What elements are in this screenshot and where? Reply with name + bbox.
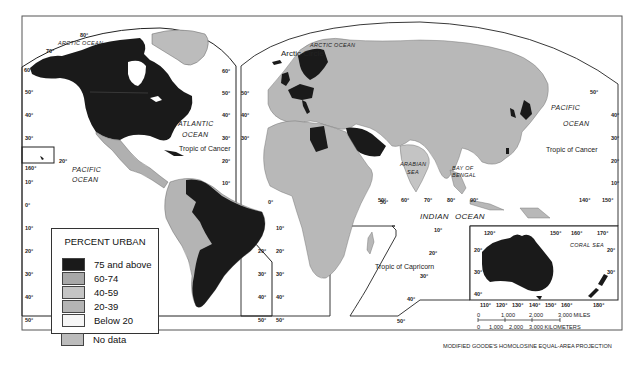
latitude-label: 30° (607, 270, 615, 276)
latitude-label: 60° (24, 68, 32, 74)
latitude-label: 40° (611, 113, 619, 119)
longitude-label: 150° (545, 303, 556, 309)
latitude-label: 40° (276, 295, 284, 301)
longitude-label: 80° (80, 33, 88, 39)
legend-swatch (62, 300, 85, 313)
latitude-label: 50° (590, 90, 598, 96)
latitude-label: 30° (420, 274, 428, 280)
latitude-label: 50° (25, 318, 33, 324)
latitude-label: 30° (474, 270, 482, 276)
ocean-label: OCEAN (72, 176, 98, 183)
longitude-label: 150° (602, 198, 613, 204)
longitude-label: 140° (579, 198, 590, 204)
latitude-label: 50° (241, 91, 249, 97)
legend-item-no-data: No data (61, 333, 126, 346)
legend-swatch (62, 286, 85, 299)
ocean-label: ARABIAN (400, 162, 426, 168)
scale-label: 2,000 (529, 312, 543, 318)
longitude-label: 160° (25, 166, 36, 172)
legend-item-40-59: 40-59 (62, 285, 118, 299)
latitude-label: 50° (276, 318, 284, 324)
longitude-label: 60° (401, 198, 409, 204)
latitude-label: 40° (25, 113, 33, 119)
legend-label: 20-39 (94, 301, 118, 312)
legend: PERCENT URBAN 75 and above 60-74 40-59 2… (51, 228, 159, 334)
latitude-label: 10° (276, 226, 284, 232)
ocean-label: ARCTIC OCEAN (58, 41, 103, 47)
latitude-label: 30° (611, 136, 619, 142)
legend-label: No data (93, 334, 126, 345)
legend-title: PERCENT URBAN (52, 236, 158, 247)
hawaii-inset (22, 147, 54, 163)
latitude-label: 40° (474, 292, 482, 298)
longitude-label: 70° (46, 49, 54, 55)
longitude-label: 140° (529, 303, 540, 309)
ocean-label: PACIFIC (551, 104, 580, 111)
longitude-label: 70° (424, 198, 432, 204)
latitude-label: 10° (222, 181, 230, 187)
longitude-label: 50° (378, 198, 386, 204)
legend-label: Below 20 (94, 315, 133, 326)
legend-label: 75 and above (94, 259, 152, 270)
arctic-circle-label: Arctic Circle (281, 50, 324, 58)
latitude-label: 20° (222, 159, 230, 165)
latitude-label: 0° (25, 203, 30, 209)
scale-label: 0 (477, 312, 480, 318)
legend-swatch (61, 333, 84, 346)
latitude-label: 10° (25, 226, 33, 232)
legend-swatch (62, 258, 85, 271)
taiwan (506, 148, 509, 154)
latitude-label: 20° (474, 248, 482, 254)
longitude-label: 150° (550, 231, 561, 237)
latitude-label: 30° (258, 272, 266, 278)
legend-item-75-above: 75 and above (62, 257, 152, 271)
longitude-label: 130° (512, 303, 523, 309)
ocean-label: INDIAN (420, 213, 449, 221)
latitude-label: 40° (407, 297, 415, 303)
scale-bar (478, 318, 560, 322)
latitude-label: 20° (611, 159, 619, 165)
latitude-label: 40° (222, 113, 230, 119)
longitude-label: 120° (484, 231, 495, 237)
scale-label: 2,000 (509, 324, 523, 330)
longitude-label: 120° (496, 303, 507, 309)
scale-label: 1,000 (501, 312, 515, 318)
scale-label: 1,000 (489, 324, 503, 330)
latitude-label: 50° (397, 319, 405, 325)
ocean-label: ARCTIC OCEAN (310, 43, 355, 49)
longitude-label: 90° (470, 198, 478, 204)
tropic-of-cancer-label: Tropic of Cancer (179, 145, 230, 152)
mexico-central-america (96, 132, 168, 188)
latitude-label: 20° (607, 248, 615, 254)
legend-swatch (62, 314, 85, 327)
latitude-label: 50° (25, 90, 33, 96)
latitude-label: 30° (276, 272, 284, 278)
hawaii (40, 156, 44, 160)
legend-label: 40-59 (94, 287, 118, 298)
latitude-label: 0° (268, 200, 273, 206)
tropic-of-capricorn-label: Tropic of Capricorn (375, 263, 434, 270)
ocean-label: OCEAN (182, 131, 208, 138)
scale-label: 3,000 KILOMETERS (529, 324, 581, 330)
latitude-label: 60° (222, 69, 230, 75)
ocean-label: OCEAN (563, 120, 589, 127)
greenland (152, 30, 208, 65)
latitude-label: 10° (25, 180, 33, 186)
ocean-label: ATLANTIC (178, 120, 214, 127)
ocean-label: BENGAL (452, 173, 476, 179)
longitude-label: 160° (561, 303, 572, 309)
ocean-label: PACIFIC (72, 166, 101, 173)
madagascar (367, 232, 374, 254)
latitude-label: 30° (241, 136, 249, 142)
latitude-label: 20° (258, 249, 266, 255)
latitude-label: 40° (258, 295, 266, 301)
scale-label: 0 (477, 324, 480, 330)
latitude-label: 30° (222, 136, 230, 142)
latitude-label: 20° (429, 251, 437, 257)
longitude-label: 180° (593, 303, 604, 309)
iceland (272, 60, 282, 65)
ocean-label: SEA (407, 170, 419, 176)
longitude-label: 160° (571, 231, 582, 237)
legend-swatch (62, 272, 85, 285)
latitude-label: 40° (241, 113, 249, 119)
